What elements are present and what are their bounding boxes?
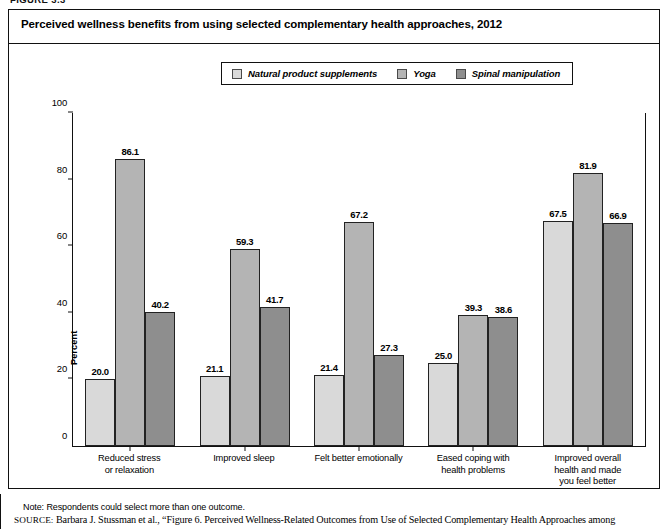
legend-swatch-0 [232, 69, 242, 79]
bar-slot-0-2: 40.2 [145, 113, 175, 446]
bar[interactable]: 67.5 [543, 221, 573, 446]
x-tick-mark-0 [130, 446, 131, 451]
bar-slot-1-2: 41.7 [260, 113, 290, 446]
x-axis-label-line: Reduced stress [72, 453, 187, 465]
y-tick-label-40: 40 [57, 296, 67, 307]
x-tick-mark-4 [587, 446, 588, 451]
bar-slot-0-0: 20.0 [85, 113, 115, 446]
figure-box: Perceived wellness benefits from using s… [8, 9, 660, 489]
bar-groups: 20.086.140.221.159.341.721.467.227.325.0… [73, 113, 645, 446]
bar-value-label: 41.7 [266, 294, 283, 305]
legend-label-2: Spinal manipulation [472, 68, 560, 79]
bar-group-2: 21.467.227.3 [302, 113, 416, 446]
bar[interactable]: 41.7 [260, 307, 290, 446]
page-side-rule [0, 494, 1, 529]
chart-note: Note: Respondents could select more than… [23, 502, 245, 512]
bar-slot-4-2: 66.9 [603, 113, 633, 446]
x-axis-label-line: or relaxation [72, 465, 187, 477]
bar-slot-1-1: 59.3 [230, 113, 260, 446]
y-tick-label-60: 60 [57, 230, 67, 241]
bar-slot-3-2: 38.6 [488, 113, 518, 446]
plot-right-border [645, 113, 646, 447]
bar-slot-1-0: 21.1 [200, 113, 230, 446]
legend-item-2: Spinal manipulation [456, 68, 560, 79]
bar-slot-4-1: 81.9 [573, 113, 603, 446]
figure-number: FIGURE 3.3 [10, 0, 66, 6]
bar[interactable]: 25.0 [428, 363, 458, 446]
bar-value-label: 86.1 [122, 146, 139, 157]
bar-value-label: 67.2 [350, 209, 367, 220]
bar-value-label: 59.3 [236, 236, 253, 247]
bar[interactable]: 86.1 [115, 159, 145, 446]
legend-label-1: Yoga [413, 68, 435, 79]
bar-group-0: 20.086.140.2 [73, 113, 187, 446]
bar[interactable]: 39.3 [458, 315, 488, 446]
bar-group-4: 67.581.966.9 [531, 113, 645, 446]
x-axis-label-line: Improved sleep [187, 453, 302, 465]
bar[interactable]: 21.4 [314, 375, 344, 446]
bar-value-label: 21.4 [320, 362, 337, 373]
bar-value-label: 40.2 [152, 299, 169, 310]
bar-value-label: 81.9 [579, 160, 596, 171]
x-axis-label-line: health and made [530, 465, 645, 477]
bar-value-label: 67.5 [549, 208, 566, 219]
x-axis-labels: Reduced stressor relaxationImproved slee… [72, 453, 645, 488]
x-axis-label-3: Eased coping withhealth problems [416, 453, 531, 488]
legend-item-0: Natural product supplements [232, 68, 377, 79]
legend-label-0: Natural product supplements [248, 68, 377, 79]
bar-value-label: 25.0 [435, 350, 452, 361]
bar-group-1: 21.159.341.7 [187, 113, 301, 446]
bar[interactable]: 38.6 [488, 317, 518, 446]
bar-slot-2-0: 21.4 [314, 113, 344, 446]
x-axis-label-2: Felt better emotionally [301, 453, 416, 488]
figure-title-bar: Perceived wellness benefits from using s… [9, 10, 659, 44]
x-axis-label-1: Improved sleep [187, 453, 302, 488]
y-tick-label-20: 20 [57, 363, 67, 374]
legend-swatch-2 [456, 69, 466, 79]
y-tick-label-100: 100 [52, 97, 67, 108]
bar[interactable]: 59.3 [230, 249, 260, 446]
plot-area: Percent 020406080100 20.086.140.221.159.… [72, 113, 645, 447]
x-axis-label-line: you feel better [530, 476, 645, 488]
chart-legend: Natural product supplementsYogaSpinal ma… [221, 62, 573, 85]
y-tick-label-80: 80 [57, 163, 67, 174]
source-citation: SOURCE: Barbara J. Stussman et al., “Fig… [14, 514, 654, 526]
bar[interactable]: 40.2 [145, 312, 175, 446]
bar-group-3: 25.039.338.6 [416, 113, 530, 446]
x-axis-label-line: Eased coping with [416, 453, 531, 465]
page-title: Perceived wellness benefits from using s… [21, 18, 502, 30]
legend-item-1: Yoga [397, 68, 435, 79]
bar-slot-3-0: 25.0 [428, 113, 458, 446]
bar-slot-0-1: 86.1 [115, 113, 145, 446]
bar-value-label: 20.0 [92, 366, 109, 377]
bar-value-label: 27.3 [380, 342, 397, 353]
x-axis-label-line: Improved overall [530, 453, 645, 465]
y-tick-label-0: 0 [62, 430, 67, 441]
legend-swatch-1 [397, 69, 407, 79]
bar-value-label: 39.3 [465, 302, 482, 313]
bar[interactable]: 66.9 [603, 223, 633, 446]
bar-value-label: 21.1 [206, 363, 223, 374]
bar[interactable]: 67.2 [344, 222, 374, 446]
x-axis-label-line: health problems [416, 465, 531, 477]
bar-slot-4-0: 67.5 [543, 113, 573, 446]
bar[interactable]: 81.9 [573, 173, 603, 446]
x-axis-label-4: Improved overallhealth and madeyou feel … [530, 453, 645, 488]
bar[interactable]: 27.3 [374, 355, 404, 446]
x-tick-mark-1 [244, 446, 245, 451]
x-axis-label-line: Felt better emotionally [301, 453, 416, 465]
bar-value-label: 66.9 [609, 210, 626, 221]
source-text: Barbara J. Stussman et al., “Figure 6. P… [56, 514, 615, 525]
bar[interactable]: 21.1 [200, 376, 230, 446]
x-tick-mark-2 [359, 446, 360, 451]
bar-slot-2-1: 67.2 [344, 113, 374, 446]
bar-slot-2-2: 27.3 [374, 113, 404, 446]
bar[interactable]: 20.0 [85, 379, 115, 446]
bar-slot-3-1: 39.3 [458, 113, 488, 446]
source-label: SOURCE: [14, 515, 54, 525]
bar-value-label: 38.6 [495, 304, 512, 315]
x-tick-mark-3 [473, 446, 474, 451]
x-axis-label-0: Reduced stressor relaxation [72, 453, 187, 488]
